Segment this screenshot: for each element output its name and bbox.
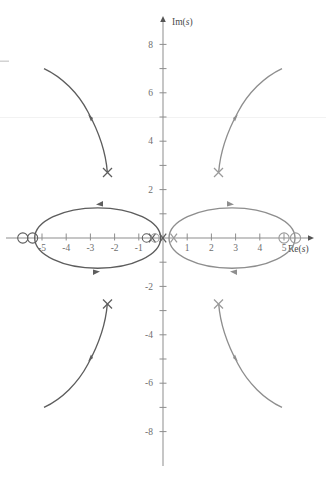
x-tick-label: 4 [257, 243, 262, 253]
y-tick-label: -2 [145, 282, 153, 292]
lower-left-arc-branch [44, 304, 107, 407]
upper-right-arc-branch [219, 69, 282, 172]
y-tick-label: -4 [145, 330, 153, 340]
y-axis-arrowhead [160, 16, 166, 22]
direction-arrow [227, 201, 234, 207]
scan-artifact-left [0, 61, 9, 62]
y-tick-label: 6 [148, 88, 153, 98]
root-locus-figure: -5 -4 -3 -2 -1 1 2 3 4 5 [0, 0, 326, 486]
x-tick-labels: -5 -4 -3 -2 -1 1 2 3 4 5 [38, 243, 287, 253]
x-tick-label: -4 [62, 243, 70, 253]
y-tick-label: 8 [148, 40, 153, 50]
x-tick-label: -3 [86, 243, 94, 253]
upper-left-arc-branch [44, 69, 107, 172]
x-tick-label: -1 [135, 243, 143, 253]
y-tick-label: -6 [145, 378, 153, 388]
x-tick-label: -2 [111, 243, 119, 253]
direction-arrow [230, 269, 237, 275]
x-tick-label: 3 [233, 243, 238, 253]
complex-plane-plot: -5 -4 -3 -2 -1 1 2 3 4 5 [0, 0, 326, 486]
x-tick-label: 1 [185, 243, 190, 253]
y-tick-label: -8 [145, 427, 153, 437]
direction-arrow [93, 269, 100, 275]
y-tick-label: 4 [148, 136, 153, 146]
y-axis-label: Im(s) [172, 17, 193, 28]
y-tick-label: 2 [148, 185, 153, 195]
x-tick-label: 2 [209, 243, 214, 253]
lower-right-arc-branch [219, 304, 282, 407]
direction-arrow [96, 201, 103, 207]
x-tick-label: 5 [282, 243, 287, 253]
x-axis-arrowhead [308, 235, 314, 241]
